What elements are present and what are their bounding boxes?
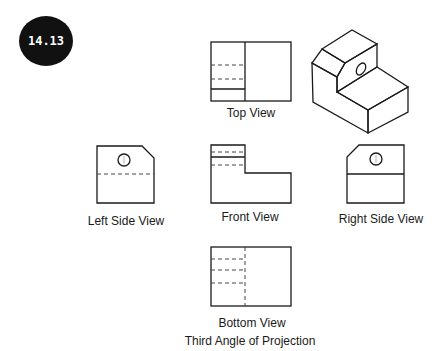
top-view-label: Top View [227, 106, 276, 120]
bottom-view-outline [211, 247, 291, 306]
iso-lower-front-face [368, 87, 408, 133]
front-view-outline [211, 145, 291, 203]
iso-left-face [312, 63, 368, 133]
badge-label: 14.13 [28, 34, 64, 48]
diagram-caption: Third Angle of Projection [185, 334, 316, 348]
front-view: Front View [211, 145, 291, 224]
isometric-view [312, 30, 408, 133]
iso-step-face [337, 67, 408, 110]
figure-number-badge: 14.13 [19, 16, 73, 66]
projection-diagram: 14.13 Top View Left Side View Front View [0, 0, 440, 351]
iso-top-face [322, 30, 377, 63]
left-side-view: Left Side View [88, 146, 165, 228]
right-view-label: Right Side View [339, 212, 424, 226]
right-side-view: Right Side View [339, 145, 424, 226]
front-view-label: Front View [221, 210, 278, 224]
bottom-view-label: Bottom View [218, 316, 285, 330]
top-view-outline [211, 42, 291, 101]
left-view-label: Left Side View [88, 214, 165, 228]
bottom-view: Bottom View [211, 247, 291, 330]
top-view: Top View [211, 42, 291, 120]
